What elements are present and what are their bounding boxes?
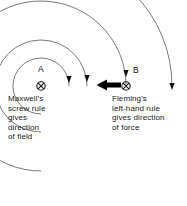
fleming-caption: Fleming's left-hand rule gives direction… [112,94,165,132]
physics-field-diagram: A B Maxwell's screw rule gives direction… [0,0,187,206]
fleming-caption-line-3: gives direction [112,113,165,123]
fleming-caption-line-4: of force [112,123,165,133]
field-arc-2 [0,40,87,86]
maxwell-caption-line-4: direction [8,123,45,133]
force-arrow [97,80,122,91]
field-arc-3 [0,1,126,86]
arc-arrowhead-4 [169,83,174,90]
maxwell-caption-line-1: Maxwell's [8,94,45,104]
maxwell-caption-line-2: screw rule [8,104,45,114]
maxwell-caption-line-5: of field [8,132,45,142]
conductor-b-label: B [133,66,139,75]
maxwell-caption: Maxwell's screw rule gives direction of … [8,94,45,142]
conductor-a-symbol [37,82,45,90]
arc-arrowhead-2 [84,75,89,82]
arc-arrowhead-3 [123,70,128,77]
arc-arrowhead-1 [66,76,71,83]
maxwell-caption-line-3: gives [8,113,45,123]
fleming-caption-line-1: Fleming's [112,94,165,104]
conductor-a-label: A [38,65,44,74]
fleming-caption-line-2: left-hand rule [112,104,165,114]
field-arc-4 [0,0,172,86]
